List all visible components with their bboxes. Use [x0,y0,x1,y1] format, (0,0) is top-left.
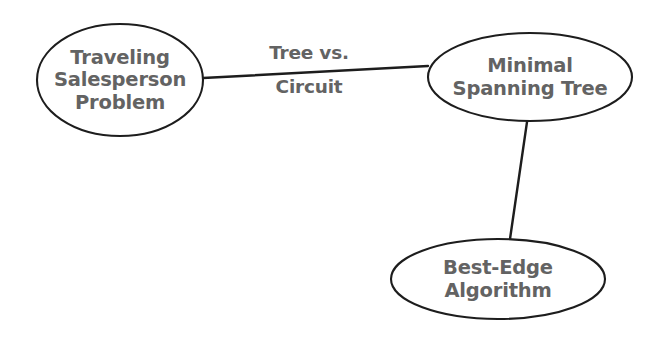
node-best-edge-algorithm[interactable] [391,239,605,319]
edge-tsp-to-mst [203,66,428,78]
node-minimal-spanning-tree[interactable] [428,33,632,121]
diagram-canvas [0,0,660,343]
edge-mst-to-bea [510,122,527,239]
concept-map-diagram: Traveling Salesperson Problem Minimal Sp… [0,0,660,343]
node-traveling-salesperson-problem[interactable] [37,24,203,136]
